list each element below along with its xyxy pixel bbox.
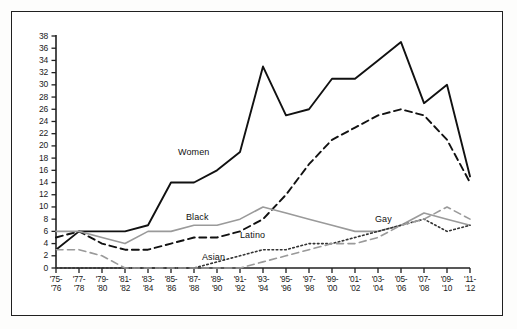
y-tick-label: 12: [28, 190, 48, 199]
y-tick-label: 10: [28, 202, 48, 211]
y-tick-label: 28: [28, 93, 48, 102]
y-tick-label: 38: [28, 32, 48, 41]
y-tick-label: 24: [28, 117, 48, 126]
y-tick-label: 2: [28, 251, 48, 260]
series-label-women: Women: [178, 148, 209, 157]
y-tick-label: 4: [28, 239, 48, 248]
series-label-gay: Gay: [375, 215, 392, 224]
y-tick-label: 16: [28, 166, 48, 175]
x-tick-label: '11-'12: [457, 275, 483, 293]
series-label-black: Black: [186, 213, 209, 222]
y-tick-label: 6: [28, 227, 48, 236]
y-tick-label: 30: [28, 80, 48, 89]
series-line-latino: [56, 109, 470, 249]
series-line-women: [56, 42, 470, 250]
y-tick-label: 20: [28, 141, 48, 150]
series-line-gay: [56, 219, 470, 268]
y-tick-label: 36: [28, 44, 48, 53]
series-label-asian: Asian: [202, 253, 225, 262]
y-tick-label: 8: [28, 215, 48, 224]
y-tick-label: 34: [28, 56, 48, 65]
y-tick-label: 18: [28, 154, 48, 163]
y-tick-label: 0: [28, 264, 48, 273]
y-tick-label: 26: [28, 105, 48, 114]
chart-figure: 02468101214161820222426283032343638'75-'…: [0, 0, 517, 329]
y-tick-label: 32: [28, 68, 48, 77]
series-label-latino: Latino: [240, 231, 265, 240]
y-tick-label: 22: [28, 129, 48, 138]
y-tick-label: 14: [28, 178, 48, 187]
